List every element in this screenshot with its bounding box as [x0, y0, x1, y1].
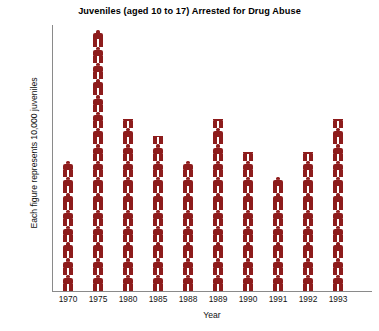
x-tick-label-1985: 1985	[141, 294, 175, 304]
pictograph-figure-icon	[302, 177, 315, 193]
pictograph-figure-icon	[62, 275, 75, 291]
pictograph-figure-icon	[272, 193, 285, 209]
pictograph-figure-icon	[152, 193, 165, 209]
pictograph-column-1985	[147, 136, 169, 291]
pictograph-figure-icon	[242, 210, 255, 226]
pictograph-column-1988	[177, 161, 199, 291]
pictograph-figure-icon	[122, 242, 135, 258]
pictograph-figure-icon	[152, 275, 165, 291]
pictograph-figure-icon	[332, 193, 345, 209]
pictograph-figure-icon	[62, 226, 75, 242]
pictograph-figure-icon	[182, 193, 195, 209]
pictograph-figure-icon	[182, 177, 195, 193]
pictograph-figure-icon	[152, 226, 165, 242]
pictograph-figure-icon	[92, 193, 105, 209]
pictograph-figure-icon	[92, 128, 105, 144]
pictograph-figure-icon	[272, 275, 285, 291]
pictograph-figure-icon	[212, 258, 225, 274]
pictograph-half-figure	[212, 119, 225, 128]
pictograph-figure-icon	[212, 193, 225, 209]
pictograph-figure-icon	[212, 161, 225, 177]
pictograph-figure-icon	[272, 242, 285, 258]
pictograph-figure-icon	[92, 30, 105, 46]
pictograph-figure-icon	[62, 161, 75, 177]
pictograph-figure-icon	[62, 193, 75, 209]
pictograph-figure-icon	[152, 242, 165, 258]
x-tick-label-1990: 1990	[231, 294, 265, 304]
pictograph-figure-icon	[182, 226, 195, 242]
pictograph-figure-icon	[212, 128, 225, 144]
pictograph-figure-icon	[332, 161, 345, 177]
pictograph-figure-icon	[272, 226, 285, 242]
pictograph-figure-icon	[242, 193, 255, 209]
pictograph-column-1992	[297, 152, 319, 291]
pictograph-figure-icon	[122, 275, 135, 291]
pictograph-figure-icon	[332, 258, 345, 274]
pictograph-figure-icon	[332, 177, 345, 193]
pictograph-figure-icon	[92, 242, 105, 258]
pictograph-figure-icon	[92, 275, 105, 291]
pictograph-figure-icon	[182, 210, 195, 226]
pictograph-figure-icon	[122, 177, 135, 193]
pictograph-figure-icon	[242, 177, 255, 193]
pictograph-figure-icon	[152, 177, 165, 193]
pictograph-half-figure	[122, 119, 135, 128]
pictograph-figure-icon	[122, 128, 135, 144]
pictograph-figure-icon	[272, 177, 285, 193]
pictograph-figure-icon	[152, 144, 165, 160]
x-tick-label-1992: 1992	[291, 294, 325, 304]
pictograph-figure-icon	[212, 275, 225, 291]
pictograph-figure-icon	[302, 242, 315, 258]
pictograph-column-1970	[57, 161, 79, 291]
pictograph-figure-icon	[212, 242, 225, 258]
pictograph-figure-icon	[332, 144, 345, 160]
pictograph-figure-icon	[242, 161, 255, 177]
pictograph-figure-icon	[122, 210, 135, 226]
pictograph-half-figure	[152, 136, 165, 145]
pictograph-half-figure	[242, 152, 255, 161]
pictograph-figure-icon	[62, 210, 75, 226]
pictograph-figure-icon	[212, 210, 225, 226]
pictograph-figure-icon	[302, 275, 315, 291]
pictograph-figure-icon	[92, 112, 105, 128]
x-tick-label-1975: 1975	[81, 294, 115, 304]
x-tick-label-1980: 1980	[111, 294, 145, 304]
pictograph-figure-icon	[242, 242, 255, 258]
pictograph-figure-icon	[302, 161, 315, 177]
pictograph-figure-icon	[92, 79, 105, 95]
pictograph-figure-icon	[332, 226, 345, 242]
pictograph-figure-icon	[122, 226, 135, 242]
pictograph-figure-icon	[92, 63, 105, 79]
pictograph-figure-icon	[182, 161, 195, 177]
x-axis-line	[52, 291, 372, 292]
plot-area	[53, 25, 373, 291]
pictograph-figure-icon	[92, 258, 105, 274]
x-tick-label-1989: 1989	[201, 294, 235, 304]
pictograph-figure-icon	[92, 47, 105, 63]
pictograph-figure-icon	[182, 275, 195, 291]
x-tick-label-1988: 1988	[171, 294, 205, 304]
pictograph-figure-icon	[92, 177, 105, 193]
pictograph-figure-icon	[212, 177, 225, 193]
pictograph-half-figure	[332, 119, 345, 128]
pictograph-figure: Juveniles (aged 10 to 17) Arrested for D…	[0, 0, 379, 331]
pictograph-figure-icon	[92, 226, 105, 242]
pictograph-figure-icon	[182, 258, 195, 274]
pictograph-figure-icon	[242, 258, 255, 274]
pictograph-figure-icon	[332, 242, 345, 258]
pictograph-figure-icon	[62, 242, 75, 258]
y-axis-label: Each figure represents 10,000 juveniles	[29, 33, 39, 273]
pictograph-figure-icon	[272, 210, 285, 226]
pictograph-figure-icon	[212, 144, 225, 160]
pictograph-figure-icon	[152, 258, 165, 274]
chart-title: Juveniles (aged 10 to 17) Arrested for D…	[0, 6, 379, 17]
pictograph-figure-icon	[92, 144, 105, 160]
pictograph-column-1989	[207, 119, 229, 291]
pictograph-figure-icon	[302, 193, 315, 209]
pictograph-figure-icon	[302, 258, 315, 274]
pictograph-figure-icon	[122, 193, 135, 209]
x-tick-label-1993: 1993	[321, 294, 355, 304]
pictograph-figure-icon	[332, 275, 345, 291]
pictograph-half-figure	[302, 152, 315, 161]
pictograph-figure-icon	[152, 161, 165, 177]
